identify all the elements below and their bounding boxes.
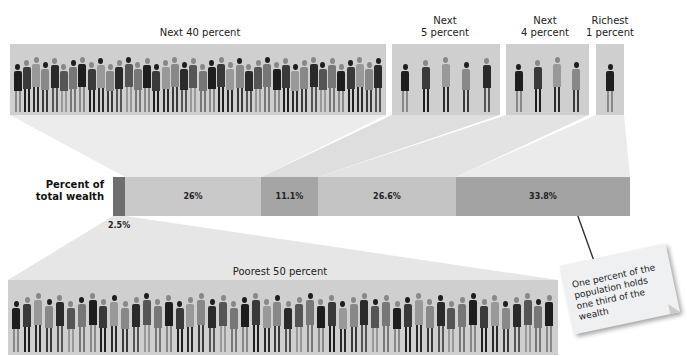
person-figure-icon bbox=[481, 299, 488, 352]
person-figure-icon bbox=[554, 57, 561, 112]
person-figure-icon bbox=[282, 58, 289, 112]
person-figure-icon bbox=[70, 60, 77, 112]
person-figure-icon bbox=[372, 299, 379, 352]
person-figure-icon bbox=[402, 64, 409, 112]
person-figure-icon bbox=[317, 299, 324, 352]
person-figure-icon bbox=[356, 57, 363, 112]
person-figure-icon bbox=[459, 297, 466, 352]
person-figure-icon bbox=[319, 62, 326, 112]
label-next4: Next4 percent bbox=[520, 15, 570, 39]
bar-segment-next4: 26.6% bbox=[318, 177, 456, 216]
person-figure-icon bbox=[273, 62, 280, 112]
panel-next5-crowd bbox=[392, 44, 500, 115]
person-figure-icon bbox=[274, 295, 281, 352]
person-figure-icon bbox=[607, 64, 614, 112]
person-figure-icon bbox=[535, 299, 542, 352]
person-figure-icon bbox=[448, 301, 455, 352]
person-figure-icon bbox=[111, 295, 118, 352]
person-figure-icon bbox=[42, 62, 49, 112]
person-figure-icon bbox=[442, 57, 449, 112]
label-next40: Next 40 percent bbox=[140, 27, 260, 39]
person-figure-icon bbox=[329, 58, 336, 112]
page-fold-icon bbox=[668, 302, 680, 314]
person-figure-icon bbox=[263, 299, 270, 352]
person-figure-icon bbox=[24, 297, 31, 352]
person-figure-icon bbox=[483, 58, 490, 112]
person-figure-icon bbox=[143, 293, 150, 352]
person-figure-icon bbox=[187, 297, 194, 352]
person-figure-icon bbox=[470, 293, 477, 352]
person-figure-icon bbox=[23, 60, 30, 112]
person-figure-icon bbox=[404, 297, 411, 352]
person-figure-icon bbox=[67, 301, 74, 352]
panel-next40-crowd bbox=[10, 44, 386, 115]
person-figure-icon bbox=[422, 60, 429, 112]
label-poorest50-value: 2.5% bbox=[108, 221, 130, 230]
person-figure-icon bbox=[165, 295, 172, 352]
person-figure-icon bbox=[33, 57, 40, 112]
panel-poorest50-crowd bbox=[8, 280, 558, 355]
person-figure-icon bbox=[181, 62, 188, 112]
person-figure-icon bbox=[220, 295, 227, 352]
person-figure-icon bbox=[79, 57, 86, 112]
person-figure-icon bbox=[350, 297, 357, 352]
person-figure-icon bbox=[296, 297, 303, 352]
person-figure-icon bbox=[190, 58, 197, 112]
person-figure-icon bbox=[125, 57, 132, 112]
person-figure-icon bbox=[100, 299, 107, 352]
person-figure-icon bbox=[502, 301, 509, 352]
person-figure-icon bbox=[230, 301, 237, 352]
label-richest1: Richest1 percent bbox=[585, 15, 635, 39]
person-figure-icon bbox=[573, 62, 580, 112]
bar-segment-poorest50 bbox=[113, 177, 125, 216]
person-figure-icon bbox=[310, 57, 317, 112]
person-figure-icon bbox=[89, 293, 96, 352]
person-figure-icon bbox=[524, 293, 531, 352]
person-figure-icon bbox=[153, 64, 160, 112]
person-figure-icon bbox=[338, 64, 345, 112]
person-figure-icon bbox=[154, 299, 161, 352]
person-figure-icon bbox=[366, 62, 373, 112]
person-figure-icon bbox=[491, 295, 498, 352]
bar-segment-next5: 11.1% bbox=[261, 177, 318, 216]
person-figure-icon bbox=[383, 295, 390, 352]
person-figure-icon bbox=[14, 64, 21, 112]
person-figure-icon bbox=[116, 60, 123, 112]
person-figure-icon bbox=[236, 58, 243, 112]
person-figure-icon bbox=[426, 299, 433, 352]
person-figure-icon bbox=[307, 293, 314, 352]
person-figure-icon bbox=[463, 62, 470, 112]
person-figure-icon bbox=[88, 62, 95, 112]
person-figure-icon bbox=[252, 293, 259, 352]
person-figure-icon bbox=[546, 295, 553, 352]
person-figure-icon bbox=[56, 295, 63, 352]
person-figure-icon bbox=[162, 60, 169, 112]
person-figure-icon bbox=[513, 297, 520, 352]
y-axis-label: Percent oftotal wealth bbox=[32, 179, 104, 203]
person-figure-icon bbox=[51, 58, 58, 112]
person-figure-icon bbox=[415, 293, 422, 352]
person-figure-icon bbox=[285, 301, 292, 352]
person-figure-icon bbox=[339, 301, 346, 352]
panel-next4-crowd bbox=[506, 44, 589, 115]
person-figure-icon bbox=[46, 299, 53, 352]
bar-segment-next40: 26% bbox=[125, 177, 261, 216]
person-figure-icon bbox=[199, 64, 206, 112]
person-figure-icon bbox=[176, 301, 183, 352]
person-figure-icon bbox=[133, 297, 140, 352]
panel-richest1-crowd bbox=[596, 44, 624, 115]
person-figure-icon bbox=[171, 57, 178, 112]
person-figure-icon bbox=[375, 58, 382, 112]
person-figure-icon bbox=[227, 62, 234, 112]
person-figure-icon bbox=[107, 64, 114, 112]
person-figure-icon bbox=[361, 293, 368, 352]
person-figure-icon bbox=[35, 293, 42, 352]
person-figure-icon bbox=[198, 293, 205, 352]
person-figure-icon bbox=[144, 58, 151, 112]
person-figure-icon bbox=[97, 58, 104, 112]
person-figure-icon bbox=[245, 64, 252, 112]
person-figure-icon bbox=[264, 57, 271, 112]
person-figure-icon bbox=[515, 64, 522, 112]
person-figure-icon bbox=[292, 64, 299, 112]
label-poorest50: Poorest 50 percent bbox=[220, 266, 340, 278]
